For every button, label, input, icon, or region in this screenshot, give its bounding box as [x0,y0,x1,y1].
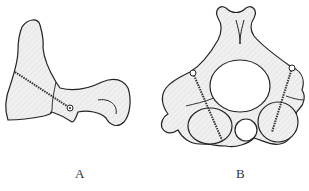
vertebral-foramen [210,60,270,112]
screw-head-left [190,70,196,76]
diagram-canvas [0,0,309,191]
panel-a-drawing [6,20,130,126]
panel-label-b: B [236,166,245,182]
right-pedicle-body [258,102,298,142]
small-foramen [235,119,257,141]
panel-label-a: A [75,166,84,182]
screw-head-right [289,65,295,71]
panel-b-drawing [161,7,304,147]
